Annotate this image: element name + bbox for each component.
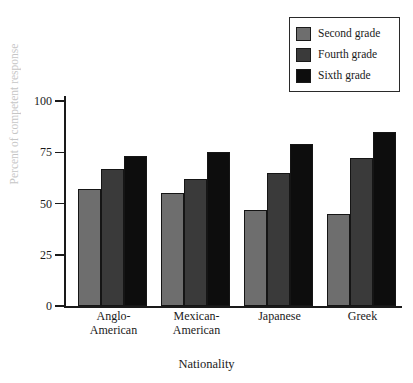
legend-item-second-grade: Second grade — [296, 23, 393, 44]
legend-item-sixth-grade: Sixth grade — [296, 65, 393, 86]
y-tick-label-100: 100 — [34, 95, 52, 107]
x-axis-line — [64, 306, 402, 308]
bar — [101, 169, 124, 306]
y-tick-100: 100 — [55, 100, 64, 102]
legend-item-fourth-grade: Fourth grade — [296, 44, 393, 65]
y-tick-label-0: 0 — [46, 300, 52, 312]
bar — [124, 156, 147, 306]
bar — [327, 214, 350, 306]
y-axis-line — [64, 96, 66, 308]
y-tick-label-25: 25 — [40, 249, 52, 261]
legend-swatch-second-grade — [296, 27, 311, 41]
y-tick-label-50: 50 — [40, 198, 52, 210]
bar — [244, 210, 267, 306]
bar-group — [78, 156, 147, 306]
legend-label-second-grade: Second grade — [318, 28, 380, 40]
bar — [373, 132, 396, 306]
bar-chart: Second grade Fourth grade Sixth grade Pe… — [0, 0, 413, 383]
legend-swatch-sixth-grade — [296, 69, 311, 83]
x-axis-title: Nationality — [0, 357, 413, 372]
bar — [207, 152, 230, 306]
bar — [290, 144, 313, 306]
bar — [161, 193, 184, 306]
y-tick-label-75: 75 — [40, 146, 52, 158]
x-tick-label: Greek — [307, 310, 413, 324]
y-tick-0: 0 — [55, 305, 64, 307]
y-tick-25: 25 — [55, 254, 64, 256]
y-axis-title: Percent of competent response — [8, 34, 20, 194]
bar — [350, 158, 373, 306]
chart-legend: Second grade Fourth grade Sixth grade — [289, 17, 400, 92]
plot-area: 0255075100 Anglo- AmericanMexican- Ameri… — [64, 96, 402, 308]
legend-label-sixth-grade: Sixth grade — [318, 70, 371, 82]
bar — [78, 189, 101, 306]
bar — [184, 179, 207, 306]
y-tick-75: 75 — [55, 152, 64, 154]
bar-group — [161, 152, 230, 306]
bar-group — [327, 132, 396, 306]
legend-swatch-fourth-grade — [296, 48, 311, 62]
legend-label-fourth-grade: Fourth grade — [318, 49, 377, 61]
bar — [267, 173, 290, 306]
bar-group — [244, 144, 313, 306]
y-tick-50: 50 — [55, 203, 64, 205]
